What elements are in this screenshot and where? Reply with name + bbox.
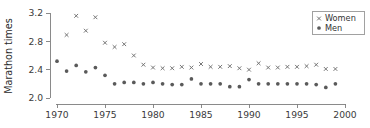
- x-tick-label: 1995: [285, 109, 309, 120]
- data-point-men: [161, 82, 165, 86]
- plot-svg: 2.02.42.83.2 197019751980198519901995200…: [0, 0, 370, 128]
- data-point-men: [295, 82, 299, 86]
- x-axis: 1970197519801985199019952000: [45, 104, 357, 120]
- data-point-men: [218, 82, 222, 86]
- x-tick-label: 1975: [93, 109, 117, 120]
- data-series-layer: [55, 14, 337, 89]
- x-tick-label: 1985: [189, 109, 213, 120]
- y-tick-label: 3.2: [28, 7, 43, 18]
- y-tick-label: 2.4: [28, 64, 43, 75]
- data-point-men: [286, 82, 290, 86]
- data-point-women: [94, 15, 98, 19]
- data-point-men: [190, 77, 194, 81]
- y-axis: 2.02.42.83.2: [28, 7, 50, 103]
- legend-marker-men: [317, 26, 321, 30]
- data-point-men: [314, 83, 318, 87]
- data-point-men: [103, 73, 107, 77]
- data-point-women: [286, 65, 290, 69]
- data-point-men: [266, 82, 270, 86]
- legend-label-men: Men: [325, 23, 342, 33]
- data-point-men: [74, 64, 78, 68]
- data-point-men: [55, 59, 59, 63]
- data-point-women: [228, 64, 232, 68]
- x-tick-group: 1970197519801985199019952000: [45, 104, 357, 120]
- data-point-men: [247, 78, 251, 82]
- data-point-men: [228, 85, 232, 89]
- data-point-women: [209, 65, 213, 69]
- data-point-men: [113, 82, 117, 86]
- data-point-women: [257, 61, 261, 65]
- series-women: [65, 14, 338, 72]
- data-point-women: [334, 67, 338, 71]
- x-tick-label: 1980: [141, 109, 165, 120]
- data-point-women: [142, 63, 146, 67]
- data-point-women: [122, 42, 126, 46]
- data-point-women: [113, 45, 117, 49]
- marathon-times-scatter-chart: 2.02.42.83.2 197019751980198519901995200…: [0, 0, 370, 128]
- data-point-men: [209, 82, 213, 86]
- data-point-women: [74, 14, 78, 18]
- data-point-women: [276, 66, 280, 70]
- data-point-women: [247, 68, 251, 72]
- data-point-women: [103, 41, 107, 45]
- y-tick-group: 2.02.42.83.2: [28, 7, 50, 103]
- data-point-men: [180, 83, 184, 87]
- x-tick-label: 2000: [333, 109, 357, 120]
- data-point-men: [84, 70, 88, 74]
- data-point-women: [65, 33, 69, 37]
- data-point-women: [161, 66, 165, 70]
- data-point-women: [305, 64, 309, 68]
- data-point-women: [84, 29, 88, 33]
- data-point-men: [199, 82, 203, 86]
- data-point-women: [199, 62, 203, 66]
- series-men: [55, 59, 337, 89]
- data-point-women: [132, 54, 136, 58]
- data-point-men: [257, 82, 261, 86]
- data-point-men: [238, 85, 242, 89]
- data-point-men: [94, 66, 98, 70]
- data-point-women: [314, 63, 318, 67]
- chart-legend: WomenMen: [312, 11, 364, 34]
- data-point-men: [132, 81, 136, 85]
- data-point-men: [324, 86, 328, 90]
- data-point-men: [142, 82, 146, 86]
- y-tick-label: 2.8: [28, 36, 43, 47]
- data-point-women: [151, 66, 155, 70]
- x-tick-label: 1990: [237, 109, 261, 120]
- data-point-women: [324, 67, 328, 71]
- data-point-men: [276, 82, 280, 86]
- data-point-men: [151, 81, 155, 85]
- data-point-men: [122, 81, 126, 85]
- y-tick-label: 2.0: [28, 92, 43, 103]
- data-point-men: [170, 83, 174, 87]
- data-point-women: [238, 66, 242, 70]
- data-point-women: [170, 66, 174, 70]
- data-point-women: [295, 65, 299, 69]
- data-point-women: [266, 66, 270, 70]
- data-point-men: [334, 82, 338, 86]
- x-tick-label: 1970: [45, 109, 69, 120]
- data-point-women: [218, 65, 222, 69]
- legend-label-women: Women: [325, 13, 356, 23]
- data-point-women: [190, 66, 194, 70]
- y-axis-title: Marathon times: [3, 18, 14, 94]
- data-point-men: [305, 82, 309, 86]
- data-point-men: [65, 69, 69, 73]
- data-point-women: [180, 65, 184, 69]
